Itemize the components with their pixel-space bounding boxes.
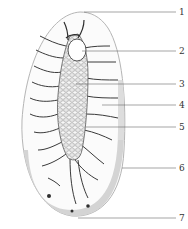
label-6: 6 [179,163,185,173]
label-4: 4 [179,100,185,110]
organism-section [0,0,188,229]
label-1: 1 [179,7,185,17]
label-2: 2 [179,46,185,56]
label-5: 5 [179,122,185,132]
label-7: 7 [179,213,185,223]
diagram: 1 2 3 4 5 6 7 [0,0,188,229]
apical-vesicle [68,39,86,61]
label-3: 3 [179,79,185,89]
